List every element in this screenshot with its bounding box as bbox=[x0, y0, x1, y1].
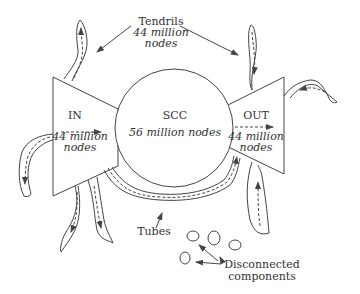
disconnected-leader-arrow-1 bbox=[199, 245, 218, 261]
disconnected-leader-arrow-3 bbox=[196, 262, 221, 264]
disconnected-label-line2: components bbox=[222, 271, 302, 283]
disconnected-component-1 bbox=[187, 231, 199, 241]
out-label: OUT bbox=[236, 110, 276, 122]
in-label: IN bbox=[60, 110, 90, 122]
tendril-bottom-left-1 bbox=[61, 186, 80, 252]
tendril-left bbox=[19, 134, 53, 197]
scc-label: SCC bbox=[150, 110, 200, 122]
bow-tie-diagram: Tendrils 44 million nodes IN 44 million … bbox=[0, 0, 360, 294]
tendril-top-left bbox=[64, 20, 87, 81]
tendril-bottom-right bbox=[247, 162, 269, 234]
tendrils-unit: nodes bbox=[126, 38, 196, 50]
scc-count: 56 million nodes bbox=[120, 127, 230, 139]
tendril-bottom-left-2 bbox=[88, 177, 113, 243]
out-unit: nodes bbox=[231, 142, 281, 154]
disconnected-component-4 bbox=[180, 252, 190, 264]
disconnected-component-3 bbox=[229, 240, 241, 250]
tendril-right bbox=[284, 80, 337, 103]
disconnected-label-line1: Disconnected bbox=[222, 259, 302, 271]
disconnected-component-2 bbox=[208, 231, 220, 245]
in-unit: nodes bbox=[55, 142, 105, 154]
tubes-label: Tubes bbox=[134, 226, 174, 238]
